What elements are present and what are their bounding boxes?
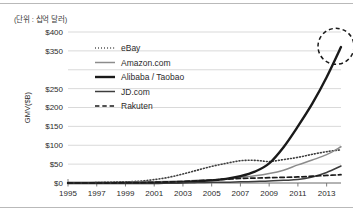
legend-label-ebay: eBay bbox=[121, 43, 141, 53]
y-tick-label: $400 bbox=[45, 28, 63, 37]
legend-label-alibaba-taobao: Alibaba / Taobao bbox=[121, 72, 184, 82]
x-tick-label: 2007 bbox=[232, 189, 250, 198]
series-line-ebay bbox=[68, 150, 341, 183]
series-line-amazon-com bbox=[68, 147, 341, 183]
x-tick-label: 1999 bbox=[117, 189, 135, 198]
legend: eBayAmazon.comAlibaba / TaobaoJD.comRaku… bbox=[95, 43, 184, 111]
y-tick-label: $100 bbox=[45, 141, 63, 150]
x-tick-label: 2005 bbox=[203, 189, 221, 198]
y-axis-title: GMV($B) bbox=[23, 91, 32, 123]
legend-label-jd-com: JD.com bbox=[121, 87, 150, 97]
x-tick-label: 2003 bbox=[174, 189, 192, 198]
y-tick-label: $0 bbox=[54, 179, 63, 188]
y-tick-label: $200 bbox=[45, 103, 63, 112]
line-chart-plot: $0$50$100$150$200$250$350$400 1995199719… bbox=[0, 0, 353, 216]
x-tick-label: 2011 bbox=[289, 189, 307, 198]
x-tick-label: 2001 bbox=[145, 189, 163, 198]
series-group bbox=[68, 47, 341, 183]
y-tick-label: $150 bbox=[45, 122, 63, 131]
legend-label-amazon-com: Amazon.com bbox=[121, 58, 171, 68]
x-axis-tick-labels: 1995199719992001200320052007200920112013 bbox=[59, 189, 336, 198]
y-axis-tick-labels: $0$50$100$150$200$250$350$400 bbox=[45, 28, 63, 188]
y-tick-label: $250 bbox=[45, 85, 63, 94]
series-line-alibaba-taobao bbox=[68, 47, 341, 183]
chart-figure: (단위 : 십억 달러) $0$50$100$150$200$250$350$4… bbox=[0, 0, 353, 216]
gridlines-group bbox=[68, 32, 341, 183]
x-tick-label: 1997 bbox=[88, 189, 106, 198]
y-tick-label: $350 bbox=[45, 47, 63, 56]
x-tick-label: 2009 bbox=[260, 189, 278, 198]
y-tick-label: $50 bbox=[50, 160, 64, 169]
x-tick-label: 2013 bbox=[318, 189, 336, 198]
legend-label-rakuten: Rakuten bbox=[121, 101, 153, 111]
x-tick-label: 1995 bbox=[59, 189, 77, 198]
